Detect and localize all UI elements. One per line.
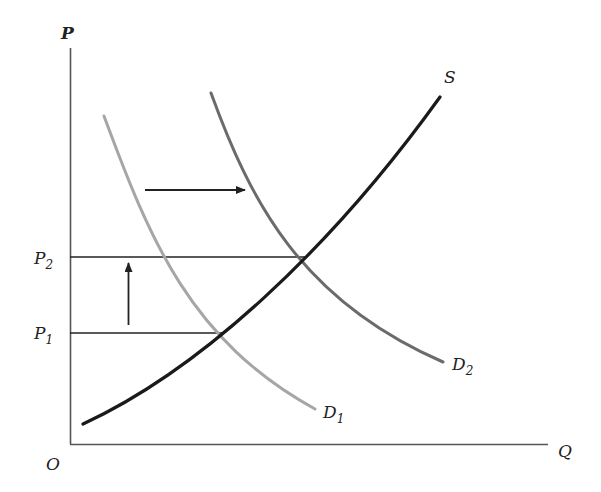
p1-label: P1 [33, 323, 53, 347]
supply-demand-diagram: P Q O P2 P1 D1 D2 S [0, 0, 601, 492]
d2-label: D2 [451, 354, 473, 378]
d1-label: D1 [322, 402, 344, 426]
demand-curve-d1 [104, 116, 315, 409]
supply-label: S [444, 67, 456, 87]
p2-label: P2 [33, 248, 53, 272]
origin-label: O [46, 454, 60, 474]
demand-curve-d2 [211, 93, 443, 362]
y-axis-label: P [60, 23, 75, 43]
x-axis-label: Q [558, 441, 572, 461]
